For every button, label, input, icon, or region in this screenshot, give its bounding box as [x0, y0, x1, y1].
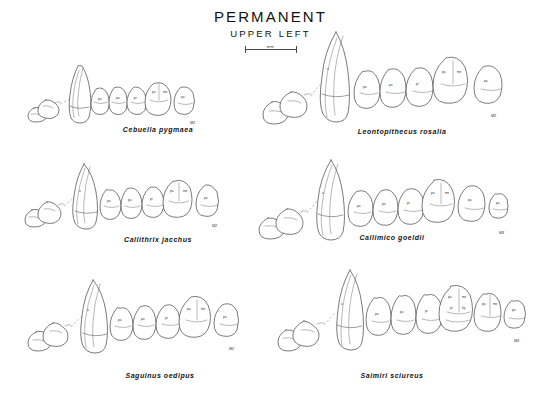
cusp-annotation: a	[79, 189, 81, 193]
cusp-annotation: pa	[468, 198, 472, 202]
tooth-position-label: M3	[499, 231, 504, 235]
canine	[69, 66, 91, 123]
molar-m2: pa me	[474, 293, 501, 331]
molar-m1: pa me	[145, 83, 171, 116]
molar-m2: pa	[458, 186, 485, 222]
caption-saguinus-oedipus: Saguinus oedipus	[80, 372, 240, 379]
panel-callimico-goeldii: a pa pa pr pa me	[256, 158, 516, 246]
molar-m3: pa	[504, 301, 526, 329]
cusp-annotation: pa	[116, 96, 120, 100]
molar-m1: pa me	[163, 180, 192, 217]
tooth-position-label: M2	[190, 121, 195, 125]
cusp-annotation: pa	[375, 312, 379, 316]
premolar-p2: pa	[366, 297, 391, 335]
molar-m3: pa	[489, 194, 508, 219]
premolar-p3: pa	[121, 188, 142, 219]
canine: a	[337, 270, 364, 350]
dental-illustration-plate: PERMANENT UPPER LEFT mm	[0, 0, 541, 410]
cusp-annotation: me	[445, 191, 450, 195]
cusp-annotation: pa	[141, 317, 145, 321]
cusp-annotation: me	[163, 90, 168, 94]
cusp-annotation: pa	[389, 83, 393, 87]
cusp-annotation: pa	[382, 202, 386, 206]
tooth-position-label: M2	[229, 347, 234, 351]
cusp-annotation: pr	[134, 96, 137, 100]
canine: a	[81, 280, 108, 353]
incisor-cluster	[28, 323, 71, 351]
cusp-annotation: me	[201, 307, 206, 311]
arcade-connector	[324, 312, 336, 325]
canine: a	[320, 32, 349, 122]
caption-cebuella-pygmaea: Cebuella pygmaea	[78, 126, 238, 133]
premolar-p3: pa	[373, 190, 398, 226]
cusp-annotation: pa	[496, 201, 500, 205]
canine: a	[73, 164, 98, 229]
molar-m2: pa	[174, 87, 195, 115]
incisor-cluster	[278, 321, 324, 351]
tooth-position-label: M3	[514, 339, 519, 343]
panel-leontopithecus-rosalia: a pa pa pr pa me	[258, 30, 508, 128]
canine: a	[317, 160, 345, 240]
molar-m2: pa	[474, 66, 502, 104]
cusp-annotation: a	[341, 302, 343, 306]
incisor-cluster	[25, 202, 64, 227]
premolar-p2: pa	[110, 308, 133, 341]
premolar-p4: pr	[142, 187, 164, 218]
premolar-p2: pa	[91, 88, 110, 115]
cusp-annotation: pa	[357, 204, 361, 208]
cusp-annotation: pr	[150, 197, 153, 201]
cusp-annotation: pa	[118, 318, 122, 322]
cusp-annotation: pr	[165, 316, 168, 320]
cusp-annotation: pa	[107, 199, 111, 203]
premolar-p2: pa	[100, 190, 121, 220]
caption-leontopithecus-rosalia: Leontopithecus rosalia	[312, 128, 492, 135]
cusp-annotation: pa	[400, 310, 404, 314]
cusp-annotation: pa	[187, 307, 191, 311]
cusp-annotation: pa	[204, 196, 208, 200]
caption-saimiri-sciureus: Saimiri sciureus	[312, 372, 472, 379]
cusp-annotation: a	[322, 191, 324, 195]
cusp-annotation: pa	[482, 302, 486, 306]
premolar-p2: pa	[348, 191, 373, 227]
premolar-p4: pr	[127, 87, 147, 115]
cusp-annotation: me	[183, 189, 188, 193]
cusp-annotation: a	[327, 67, 329, 71]
tooth-position-label: M2	[212, 224, 217, 228]
cusp-annotation: pa	[448, 295, 452, 299]
premolar-p3: pa	[133, 306, 156, 340]
page-title: PERMANENT	[0, 8, 541, 25]
molar-m2: pa	[214, 304, 239, 337]
cusp-annotation: me	[462, 295, 467, 299]
caption-callimico-goeldii: Callimico goeldii	[312, 234, 472, 241]
caption-callithrix-jacchus: Callithrix jacchus	[78, 236, 238, 243]
premolar-p4: pr	[416, 294, 442, 333]
arcade-connector	[307, 200, 318, 213]
cusp-annotation: me	[457, 70, 462, 74]
cusp-annotation: pa	[170, 189, 174, 193]
molar-m1: pa me	[179, 296, 211, 337]
cusp-annotation: hy	[462, 306, 466, 310]
molar-m2: pa	[196, 185, 219, 217]
cusp-annotation: pr	[425, 309, 428, 313]
cusp-annotation: pa	[442, 70, 446, 74]
premolar-p3: pa	[109, 87, 128, 115]
premolar-p3: pa	[391, 295, 416, 334]
premolar-p3: pa	[380, 69, 406, 108]
incisor-cluster	[28, 100, 60, 122]
incisor-cluster	[259, 209, 307, 239]
cusp-annotation: pa	[181, 95, 185, 99]
panel-saguinus-oedipus: a pa pa pr pa me	[26, 278, 241, 360]
cusp-annotation: pa	[431, 191, 435, 195]
cusp-annotation: pa	[223, 315, 227, 319]
cusp-annotation: pa	[484, 79, 488, 83]
premolar-p4: pr	[406, 68, 433, 107]
cusp-annotation: pa	[363, 85, 367, 89]
cusp-annotation: pr	[407, 201, 410, 205]
molar-m1: pa me	[433, 57, 468, 103]
cusp-annotation: pa	[512, 308, 516, 312]
panel-callithrix-jacchus: a pa pa pr pa me	[22, 162, 237, 236]
cusp-annotation: a	[87, 308, 89, 312]
panel-cebuella-pygmaea: pa pa pr pa me pa	[22, 62, 222, 134]
panel-saimiri-sciureus: a pa pa pr pa	[278, 268, 530, 360]
molar-m1: pa me pr hy	[439, 285, 473, 331]
